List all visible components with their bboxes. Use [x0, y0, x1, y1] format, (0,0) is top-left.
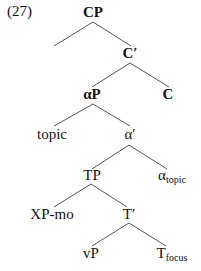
node-tp: TP — [83, 168, 101, 183]
node-alpha-p: αP — [83, 87, 101, 102]
node-t-focus: Tfocus — [157, 246, 188, 261]
alpha-topic-base: α — [158, 167, 166, 183]
example-number: (27) — [7, 4, 32, 19]
edge-alphap-topic — [54, 104, 93, 126]
edge-alphabar-alphatopic — [129, 145, 167, 169]
node-vp: vP — [83, 246, 99, 261]
edge-cbar-alphap — [92, 63, 130, 87]
t-focus-sub: focus — [166, 252, 188, 263]
edge-cp-cbar — [93, 22, 131, 46]
t-focus-base: T — [157, 245, 166, 261]
edge-alphabar-tp — [92, 145, 129, 169]
node-topic: topic — [37, 127, 67, 142]
node-c: C — [163, 87, 174, 102]
node-c-bar: C′ — [122, 46, 137, 61]
node-alpha-bar: α′ — [124, 127, 135, 142]
node-cp: CP — [83, 5, 103, 20]
node-alpha-topic: αtopic — [158, 168, 186, 183]
edge-tbar-vp — [92, 223, 129, 246]
edge-cp-left — [54, 22, 93, 46]
edge-alphap-alphabar — [93, 104, 130, 126]
edge-tp-xpmo — [54, 184, 91, 207]
edge-cbar-c — [130, 63, 169, 87]
node-t-bar: T′ — [123, 207, 135, 222]
node-xp-mo: XP-mo — [30, 207, 73, 222]
alpha-topic-sub: topic — [166, 174, 186, 185]
tree-edges — [0, 0, 201, 271]
edge-tp-tbar — [91, 184, 127, 207]
edge-tbar-tfocus — [129, 223, 166, 246]
